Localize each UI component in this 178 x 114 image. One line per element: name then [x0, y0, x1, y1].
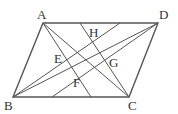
label-E: E: [54, 51, 62, 66]
parallelogram-diagram: A D B C E F G H: [0, 0, 178, 114]
label-D: D: [159, 7, 168, 22]
label-B: B: [4, 98, 13, 113]
label-F: F: [73, 75, 80, 90]
label-H: H: [89, 25, 98, 40]
label-A: A: [37, 7, 47, 22]
diagonal-BD: [13, 23, 158, 97]
label-C: C: [128, 98, 137, 113]
segment-through-G-F: [52, 23, 158, 97]
label-G: G: [109, 55, 118, 70]
